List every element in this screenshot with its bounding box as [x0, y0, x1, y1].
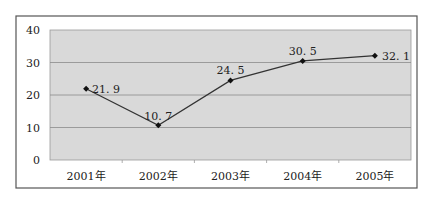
data-label: 21. 9	[92, 83, 120, 96]
y-tick-label: 10	[26, 122, 40, 135]
y-tick-label: 30	[26, 57, 40, 70]
x-tick-label: 2001年	[67, 169, 106, 183]
data-label: 30. 5	[289, 45, 317, 58]
data-label: 32. 1	[382, 50, 410, 63]
data-label: 24. 5	[217, 64, 245, 77]
y-tick-label: 40	[26, 24, 40, 37]
x-tick-label: 2005年	[355, 169, 394, 183]
data-label: 10. 7	[144, 110, 172, 123]
line-chart: 010203040 2001年2002年2003年2004年2005年 21. …	[0, 0, 429, 203]
x-tick-label: 2004年	[283, 169, 322, 183]
y-tick-label: 0	[33, 154, 40, 167]
x-tick-label: 2003年	[211, 169, 250, 183]
x-tick-label: 2002年	[139, 169, 178, 183]
y-tick-label: 20	[26, 89, 40, 102]
